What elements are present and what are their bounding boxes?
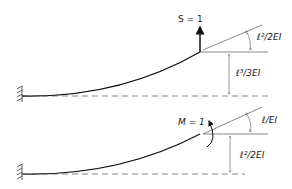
fixed-support-icon	[17, 86, 22, 102]
diagram-graphics	[0, 0, 292, 189]
rotation-label-case-1: ℓ²/2EI	[257, 33, 281, 42]
cantilever-diagram: S = 1 ℓ²/2EI ℓ³/3EI M = 1 ℓ/EI ℓ²/2EI	[0, 0, 292, 189]
deflection-label-case-1: ℓ³/3EI	[236, 69, 260, 78]
beam-case-1	[17, 25, 270, 102]
deflection-label-case-2: ℓ²/2EI	[240, 151, 264, 160]
load-label-case-2: M = 1	[178, 118, 205, 127]
beam-case-2	[17, 107, 268, 180]
fixed-support-icon	[17, 164, 22, 180]
load-label-case-1: S = 1	[178, 15, 203, 24]
rotation-label-case-2: ℓ/EI	[262, 116, 277, 125]
